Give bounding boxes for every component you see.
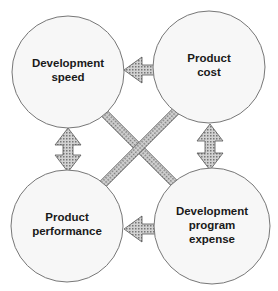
node-product-performance: Product performance: [11, 170, 123, 282]
node-label: expense: [189, 233, 235, 245]
node-development-program-expense: Development program expense: [154, 168, 270, 284]
node-label: performance: [32, 225, 102, 237]
node-product-cost: Product cost: [153, 11, 265, 123]
node-label: Development: [32, 57, 104, 69]
node-development-speed: Development speed: [12, 16, 124, 128]
diagram-layer: Development speed Product cost Product p…: [0, 0, 278, 291]
node-label: cost: [197, 66, 221, 78]
node-label: speed: [51, 71, 84, 83]
node-label: program: [189, 219, 236, 231]
node-label: Development: [176, 205, 248, 217]
node-label: Product: [187, 52, 231, 64]
node-label: Product: [45, 211, 89, 223]
